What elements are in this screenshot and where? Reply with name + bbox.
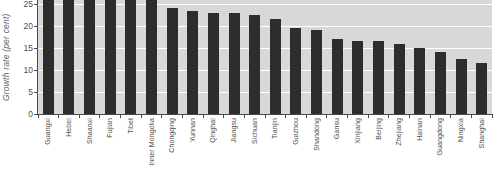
x-axis-label: Inner Mongolia — [147, 118, 156, 166]
x-tick-mark — [141, 114, 142, 118]
x-tick-mark — [492, 114, 493, 118]
y-axis-line — [37, 0, 38, 114]
bar — [229, 13, 240, 114]
bar — [270, 19, 281, 114]
x-tick-mark — [182, 114, 183, 118]
x-tick-mark — [326, 114, 327, 118]
x-axis-label: Shandong — [312, 118, 321, 151]
x-axis-label: Jiangsu — [229, 118, 238, 143]
bar — [63, 0, 74, 114]
x-tick-mark — [58, 114, 59, 118]
bar — [146, 0, 157, 114]
x-axis-label: Shaanxi — [85, 118, 94, 144]
y-tick-label: 15 — [8, 43, 33, 53]
x-axis-label: Hebei — [64, 118, 73, 137]
x-tick-mark — [306, 114, 307, 118]
x-axis-label: Guizhou — [291, 118, 300, 145]
x-axis-label: Fujian — [105, 118, 114, 138]
y-tick-label: 0 — [8, 109, 33, 119]
x-tick-mark — [265, 114, 266, 118]
bar — [187, 11, 198, 114]
bar — [290, 28, 301, 114]
x-axis-label: Guangdong — [435, 118, 444, 156]
x-axis-label: Zhejiang — [394, 118, 403, 146]
x-tick-mark — [38, 114, 39, 118]
x-tick-mark — [244, 114, 245, 118]
x-tick-mark — [99, 114, 100, 118]
x-tick-mark — [120, 114, 121, 118]
x-tick-mark — [430, 114, 431, 118]
y-tick-label: 20 — [8, 21, 33, 31]
x-axis-label: Hainan — [415, 118, 424, 141]
bar — [414, 48, 425, 114]
x-tick-mark — [285, 114, 286, 118]
x-axis-label: Yunnan — [188, 118, 197, 142]
y-tick-label: 10 — [8, 65, 33, 75]
x-tick-mark — [409, 114, 410, 118]
x-axis-label: Qinghai — [208, 118, 217, 143]
x-tick-mark — [388, 114, 389, 118]
x-tick-mark — [223, 114, 224, 118]
bar — [105, 0, 116, 114]
plot-area: 0510152025GuangxiHebeiShaanxiFujianTibet… — [0, 0, 498, 171]
bar — [43, 0, 54, 114]
x-tick-mark — [368, 114, 369, 118]
x-tick-mark — [450, 114, 451, 118]
y-tick-label: 5 — [8, 87, 33, 97]
bar — [476, 63, 487, 114]
x-axis-label: Tibet — [126, 118, 135, 134]
x-axis-label: Beijing — [374, 118, 383, 140]
x-axis-label: Shanghai — [477, 118, 486, 148]
bar — [208, 13, 219, 114]
x-axis-label: Ningxia — [456, 118, 465, 142]
x-tick-mark — [347, 114, 348, 118]
bar — [311, 30, 322, 114]
x-axis-label: Sichuan — [250, 118, 259, 144]
x-axis-label: Guangxi — [43, 118, 52, 145]
bar — [373, 41, 384, 114]
x-tick-mark — [79, 114, 80, 118]
bar — [352, 41, 363, 114]
bar — [125, 0, 136, 114]
x-axis-label: Tianjin — [270, 118, 279, 139]
y-tick-label: 25 — [8, 0, 33, 9]
x-tick-mark — [161, 114, 162, 118]
bar — [456, 59, 467, 114]
x-tick-mark — [203, 114, 204, 118]
x-tick-mark — [471, 114, 472, 118]
x-axis-label: Xinjiang — [353, 118, 362, 144]
x-axis-label: Chongqing — [167, 118, 176, 153]
bar — [394, 44, 405, 114]
bar — [332, 39, 343, 114]
x-axis-label: Gansu — [332, 118, 341, 139]
bar — [249, 15, 260, 114]
bar — [435, 52, 446, 114]
chart-canvas: Growth rate (per cent) 0510152025Guangxi… — [0, 0, 498, 171]
bar — [167, 8, 178, 114]
bar — [84, 0, 95, 114]
